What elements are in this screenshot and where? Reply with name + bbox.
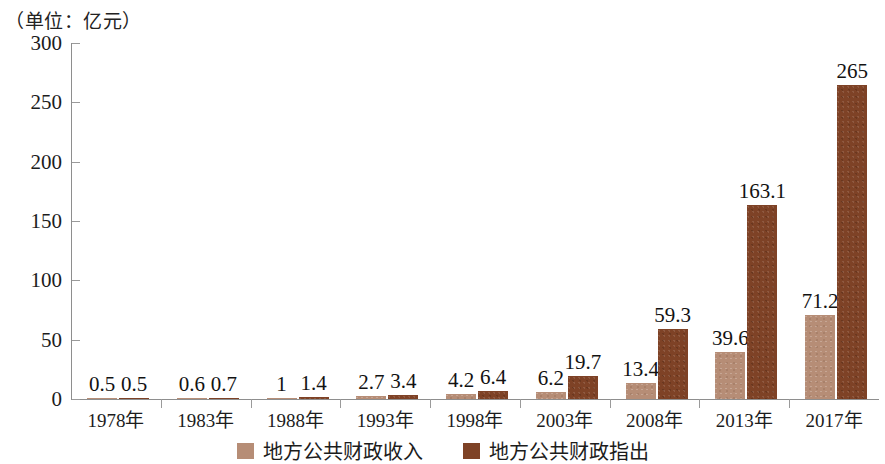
bar-value-label: 1.4 [300,373,326,394]
bar-group: 6.219.72003年 [520,43,610,399]
bar-value-label: 39.6 [712,328,749,349]
x-axis-divider-tick [789,399,790,408]
y-axis-tick-label: 100 [31,268,63,293]
bar-expenditure: 3.4 [388,395,418,399]
bar-income: 1 [267,398,297,399]
y-axis-tick-label: 0 [52,387,63,412]
x-axis-tick-label: 2003年 [536,405,593,432]
bar-group: 2.73.41993年 [340,43,430,399]
bar-group: 71.22652017年 [789,43,879,399]
chart-legend: 地方公共财政收入地方公共财政指出 [0,436,885,464]
legend-item[interactable]: 地方公共财政指出 [463,436,649,464]
y-axis-tick-label: 150 [31,209,63,234]
x-axis-divider-tick [340,399,341,408]
x-axis-tick-label: 1983年 [177,405,234,432]
bar-expenditure: 0.5 [119,398,149,399]
legend-item[interactable]: 地方公共财政收入 [237,436,423,464]
bar-expenditure: 59.3 [658,329,688,399]
bar-income: 71.2 [805,315,835,399]
x-axis-tick-label: 2008年 [626,405,683,432]
bar-value-label: 0.6 [179,374,205,395]
bar-income: 6.2 [536,392,566,399]
y-axis-tick-label: 200 [31,149,63,174]
bar-value-label: 4.2 [448,370,474,391]
bar-expenditure: 1.4 [299,397,329,399]
bar-value-label: 0.5 [121,374,147,395]
bar-value-label: 13.4 [622,359,659,380]
bar-chart: （单位：亿元） 050100150200250300 0.50.51978年0.… [0,0,885,464]
bar-value-label: 19.7 [565,352,602,373]
x-axis-divider-tick [610,399,611,408]
bar-group: 4.26.41998年 [430,43,520,399]
bar-value-label: 265 [836,61,868,82]
bar-income: 0.5 [87,398,117,399]
bar-value-label: 59.3 [654,305,691,326]
unit-caption: （单位：亿元） [5,6,142,33]
y-axis-tick-label: 250 [31,90,63,115]
bar-income: 0.6 [177,398,207,399]
legend-swatch-icon [463,443,480,459]
bar-group: 0.60.71983年 [161,43,251,399]
x-axis-tick-label: 1993年 [357,405,414,432]
bar-group: 13.459.32008年 [610,43,700,399]
bar-expenditure: 0.7 [209,398,239,399]
x-axis-divider-tick [699,399,700,408]
bar-income: 4.2 [446,394,476,399]
legend-label: 地方公共财政指出 [489,436,649,464]
y-axis-tick-label: 300 [31,31,63,56]
x-axis-line [71,399,879,400]
bar-income: 39.6 [715,352,745,399]
x-axis-divider-tick [251,399,252,408]
bar-value-label: 0.7 [211,374,237,395]
bar-expenditure: 163.1 [747,205,777,399]
x-axis-tick-label: 1978年 [87,405,144,432]
x-axis-tick-label: 2013年 [716,405,773,432]
bar-income: 13.4 [626,383,656,399]
bar-value-label: 2.7 [358,372,384,393]
bar-value-label: 3.4 [390,371,416,392]
bar-value-label: 0.5 [89,374,115,395]
legend-label: 地方公共财政收入 [263,436,423,464]
x-axis-divider-tick [520,399,521,408]
bar-group: 0.50.51978年 [71,43,161,399]
bar-value-label: 6.4 [480,367,506,388]
bar-group: 39.6163.12013年 [699,43,789,399]
x-axis-divider-tick [161,399,162,408]
bar-value-label: 1 [276,374,287,395]
bar-expenditure: 19.7 [568,376,598,399]
bar-expenditure: 6.4 [478,391,508,399]
x-axis-divider-tick [430,399,431,408]
bar-value-label: 6.2 [538,368,564,389]
bar-group: 11.41988年 [251,43,341,399]
legend-swatch-icon [237,443,254,459]
bar-value-label: 163.1 [739,181,786,202]
bar-income: 2.7 [356,396,386,399]
plot-area: 050100150200250300 0.50.51978年0.60.71983… [71,43,879,399]
x-axis-tick-label: 1998年 [446,405,503,432]
y-axis-tick-label: 50 [41,327,62,352]
x-axis-tick-label: 1988年 [267,405,324,432]
bar-expenditure: 265 [837,85,867,399]
x-axis-tick-label: 2017年 [806,405,863,432]
y-axis-tick [72,399,80,400]
bar-value-label: 71.2 [802,291,839,312]
